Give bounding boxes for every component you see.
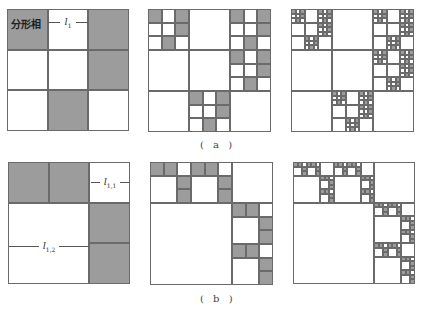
fractal-phase-cell [162,36,176,50]
dimension-label: l1 [60,16,75,29]
grid-cell [148,50,189,91]
grid-cell [232,162,273,203]
dimension-l1: l1 [48,16,88,28]
grid-cell [387,64,401,78]
dimension-arrow-right [59,246,89,247]
grid-cell [259,203,273,217]
grid-cell [150,203,232,285]
grid-cell [177,162,191,176]
grid-cell [332,9,373,50]
grid-cell [373,64,387,78]
panel-a-level-3 [291,9,414,132]
fractal-phase-cell [148,9,162,23]
fractal-phase-cell [175,9,189,23]
fractal-phase-cell [246,244,260,258]
grid-cell [148,36,162,50]
dimension-l11: l1,1 [91,176,129,188]
fractal-phase-cell [205,162,219,176]
grid-cell [150,176,177,203]
grid-cell [332,118,346,132]
fractal-phase-cell [259,258,273,272]
grid-cell [230,77,244,91]
grid-cell [189,105,203,119]
grid-cell [293,176,320,203]
grid-cell [48,50,89,91]
grid-cell [374,162,415,203]
dimension-arrow-right [120,182,129,183]
grid-cell [7,90,48,131]
grid-cell [318,36,332,50]
grid-cell [346,91,360,105]
grid-cell [244,64,258,78]
grid-cell [387,23,401,37]
grid-cell [388,248,397,257]
fractal-phase-cell [259,271,273,285]
fractal-phase-cell [203,118,217,132]
grid-cell [401,243,415,257]
grid-cell [244,9,258,23]
fractal-phase-cell [230,50,244,64]
grid-cell [175,36,189,50]
phase-label: 分形相 [11,16,41,31]
grid-cell [346,105,360,119]
fractal-phase-cell [232,203,246,217]
grid-cell [361,180,370,189]
fractal-phase-cell [246,203,260,217]
fractal-phase-cell [257,50,271,64]
dimension-l12: l1,2 [9,240,89,252]
grid-cell [203,105,217,119]
fractal-phase-cell [232,244,246,258]
grid-cell [347,167,356,176]
fractal-phase-cell [88,9,129,50]
grid-cell [320,180,329,189]
grid-cell [162,9,176,23]
fractal-phase-cell [257,23,271,37]
fractal-phase-cell [218,176,232,190]
fractal-phase-cell [88,50,129,91]
dimension-label: l1,1 [100,176,121,189]
grid-cell [232,258,259,285]
fractal-phase-cell [191,162,205,176]
grid-cell [374,216,401,243]
grid-cell [320,194,329,203]
grid-cell [374,257,401,284]
grid-cell [189,118,203,132]
grid-cell [259,244,273,258]
grid-cell [148,91,189,132]
grid-cell [230,64,244,78]
fractal-phase-cell [48,90,89,131]
grid-cell [359,118,373,132]
fractal-phase-cell [244,36,258,50]
grid-cell [230,36,244,50]
grid-cell [7,50,48,91]
fractal-phase-cell [89,203,130,244]
grid-cell [216,118,230,132]
grid-cell [232,217,259,244]
fractal-phase-cell [150,162,164,176]
grid-cell [244,50,258,64]
panel-b-level-2 [150,162,273,285]
grid-cell [374,248,383,257]
fractal-phase-cell [175,23,189,37]
grid-cell [291,91,332,132]
grid-cell [305,9,319,23]
grid-cell [257,77,271,91]
fractal-phase-cell [177,176,191,190]
grid-cell [400,36,414,50]
grid-cell [334,176,361,203]
grid-cell [244,23,258,37]
fractal-phase-cell [218,189,232,203]
fractal-phase-cell [216,105,230,119]
grid-cell [230,23,244,37]
grid-cell [401,221,410,230]
fractal-phase-cell [89,243,130,284]
grid-cell [387,9,401,23]
fractal-phase-cell [257,9,271,23]
grid-cell [373,36,387,50]
grid-cell [374,207,383,216]
fractal-phase-cell [49,162,90,203]
grid-cell [332,50,373,91]
dimension-label: l1,2 [39,240,60,253]
fractal-phase-cell [230,9,244,23]
grid-cell [291,50,332,91]
